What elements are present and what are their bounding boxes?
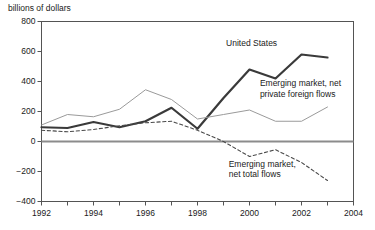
axis-ticks (38, 22, 354, 206)
chart-container: billions of dollars 8006004002000−200−40… (0, 0, 375, 230)
x-tick-label: 1996 (129, 209, 163, 218)
y-tick-label: 200 (8, 107, 36, 116)
series-annotation-label: Emerging market, net (260, 78, 341, 89)
y-tick-label: 0 (8, 137, 36, 146)
plot-frame (42, 22, 354, 202)
x-tick-label: 2002 (285, 209, 319, 218)
x-tick-label: 1992 (25, 209, 59, 218)
y-tick-label: 600 (8, 47, 36, 56)
y-tick-label: 800 (8, 17, 36, 26)
x-tick-label: 1998 (181, 209, 215, 218)
y-tick-label: −400 (8, 197, 36, 206)
x-tick-label: 2004 (337, 209, 371, 218)
series-line-3 (42, 121, 328, 180)
series-annotation-label: United States (226, 38, 277, 49)
y-tick-label: 400 (8, 77, 36, 86)
x-tick-label: 2000 (233, 209, 267, 218)
series-annotation-label: net total flows (229, 169, 281, 180)
x-tick-label: 1994 (77, 209, 111, 218)
series-annotation-label: private foreign flows (260, 89, 336, 100)
y-tick-label: −200 (8, 167, 36, 176)
chart-plot-area (0, 0, 375, 230)
